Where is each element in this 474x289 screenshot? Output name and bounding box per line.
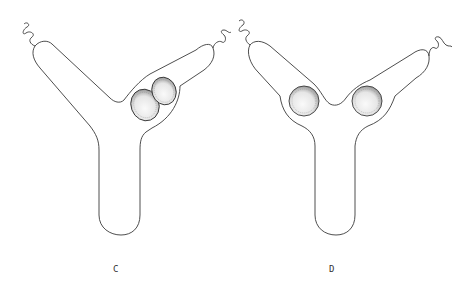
figure-canvas: [0, 0, 474, 289]
cell-c: [23, 23, 231, 235]
flagellum-c-left-icon: [23, 23, 35, 46]
panel-label-d: D: [329, 264, 334, 274]
spore-d1: [289, 86, 319, 116]
panel-label-c: C: [113, 264, 118, 274]
flagellum-d-right-icon: [429, 37, 452, 56]
spore-d2: [352, 86, 382, 116]
flagellum-c-right-icon: [213, 30, 231, 48]
flagellum-d-left-icon: [239, 20, 250, 45]
cell-d: [239, 20, 452, 235]
